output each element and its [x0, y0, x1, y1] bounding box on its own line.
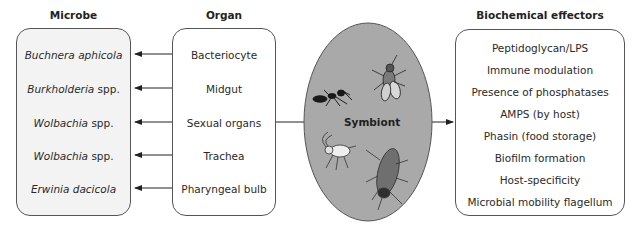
effector-item: Immune modulation — [456, 64, 624, 76]
organ-box: Bacteriocyte Midgut Sexual organs Trache… — [172, 28, 276, 216]
microbe-item: Wolbachia spp. — [17, 117, 130, 129]
effectors-box: Peptidoglycan/LPS Immune modulation Pres… — [455, 29, 625, 216]
microbe-item: Erwinia dacicola — [17, 183, 130, 195]
effector-item: Host-specificity — [456, 174, 624, 186]
effectors-title: Biochemical effectors — [455, 9, 625, 21]
microbe-item: Buchnera aphicola — [17, 49, 130, 61]
effector-item: Microbial mobility flagellum — [456, 196, 624, 208]
organ-item: Pharyngeal bulb — [173, 183, 275, 195]
symbiont-label: Symbiont — [344, 116, 400, 128]
effector-item: Phasin (food storage) — [456, 130, 624, 142]
microbe-item: Wolbachia spp. — [17, 150, 130, 162]
organ-title: Organ — [172, 9, 276, 21]
effector-item: Presence of phosphatases — [456, 86, 624, 98]
effector-item: Peptidoglycan/LPS — [456, 42, 624, 54]
organ-item: Midgut — [173, 83, 275, 95]
microbe-box: Buchnera aphicola Burkholderia spp. Wolb… — [16, 28, 131, 216]
organ-item: Trachea — [173, 150, 275, 162]
effector-item: AMPS (by host) — [456, 108, 624, 120]
organ-item: Bacteriocyte — [173, 49, 275, 61]
microbe-item: Burkholderia spp. — [17, 83, 130, 95]
effector-item: Biofilm formation — [456, 152, 624, 164]
microbe-title: Microbe — [16, 9, 131, 21]
organ-item: Sexual organs — [173, 117, 275, 129]
